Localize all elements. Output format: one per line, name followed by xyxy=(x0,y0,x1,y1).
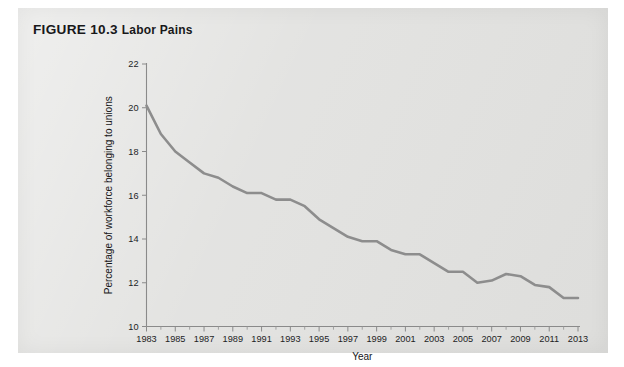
data-series-union-membership xyxy=(147,106,579,299)
x-axis-tick-label: 2011 xyxy=(539,334,559,344)
x-axis-tick-label: 1983 xyxy=(136,334,156,344)
chart-plot-svg: 10121416182022 1983198519871989199119931… xyxy=(0,0,624,367)
x-axis-tick-label: 2003 xyxy=(424,334,444,344)
y-axis-tick-label: 20 xyxy=(128,103,138,113)
y-axis-tick-label: 16 xyxy=(128,191,138,201)
line-chart: 10121416182022 1983198519871989199119931… xyxy=(0,0,624,367)
x-axis-tick-label: 1997 xyxy=(338,334,358,344)
x-axis-title: Year xyxy=(352,351,373,362)
x-axis-tick-label: 1995 xyxy=(309,334,329,344)
x-axis-tick-label: 2005 xyxy=(453,334,473,344)
y-axis-tick-label: 18 xyxy=(128,147,138,157)
data-line xyxy=(147,106,579,299)
y-axis: 10121416182022 xyxy=(128,59,146,332)
figure-root: FIGURE 10.3 Labor Pains 10121416182022 1… xyxy=(0,0,624,367)
y-axis-tick-label: 14 xyxy=(128,234,138,244)
x-axis-tick-label: 1991 xyxy=(251,334,271,344)
x-axis-tick-label: 1985 xyxy=(165,334,185,344)
x-axis-tick-label: 1993 xyxy=(280,334,300,344)
x-axis-tick-label: 2007 xyxy=(481,334,501,344)
x-axis-tick-label: 1989 xyxy=(223,334,243,344)
y-axis-tick-label: 12 xyxy=(128,278,138,288)
x-axis-tick-label: 2009 xyxy=(510,334,530,344)
x-axis-tick-label: 2013 xyxy=(568,334,588,344)
y-axis-tick-label: 22 xyxy=(128,59,138,69)
y-axis-title: Percentage of workforce belonging to uni… xyxy=(103,96,114,294)
y-axis-tick-label: 10 xyxy=(128,322,138,332)
x-axis-tick-label: 1987 xyxy=(194,334,214,344)
x-axis-tick-label: 1999 xyxy=(366,334,386,344)
x-axis: 1983198519871989199119931995199719992001… xyxy=(136,327,588,345)
x-axis-tick-label: 2001 xyxy=(395,334,415,344)
